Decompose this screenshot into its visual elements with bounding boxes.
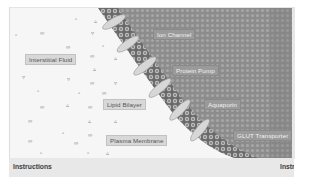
molecule-icon: ∞ [88,132,92,138]
molecule-icon: ▫ [102,43,104,49]
label-plasma-membrane[interactable]: Plasma Membrane [106,135,167,146]
molecule-icon: ▫ [40,150,42,156]
simulation-frame: ▫ ▵ ▫ ∞ ▿ ∞ ▫ ∞ ▵ ▵ ▿ ▿ ∞ ▿ ▫ ▫ ∞ ∞ ▵ ∞ … [9,7,295,159]
label-aquaporin[interactable]: Aquaporin [204,99,241,110]
label-protein-pump[interactable]: Protein Pump [172,65,219,76]
molecule-icon: ▵ [66,102,69,108]
molecule-icon: ▫ [75,16,77,22]
molecule-icon: ▫ [78,90,80,96]
instructions-tab[interactable]: Instructions [13,163,52,170]
molecule-icon: ∞ [28,138,32,144]
label-glut-transporter[interactable]: GLUT Transporter [233,130,292,141]
molecule-icon: ▫ [87,150,89,156]
molecule-icon: ∞ [74,140,78,146]
molecule-icon: ∞ [66,44,70,50]
molecule-icon: ∞ [88,104,92,110]
molecule-icon: ▵ [114,118,117,124]
vertical-scrollbar[interactable] [292,8,295,159]
molecule-icon: ∞ [102,90,106,96]
molecule-icon: ▵ [88,118,91,124]
molecule-icon: ∞ [28,118,32,124]
molecule-icon: ∞ [40,104,44,110]
molecule-icon: ∞ [90,80,94,86]
molecule-icon: ▫ [37,88,39,94]
molecule-icon: ∞ [40,30,44,36]
molecule-icon: ▵ [114,55,117,61]
molecule-icon: ▿ [91,30,94,36]
instructions-bar: Instructions Instru [9,158,294,177]
molecule-icon: ▫ [62,130,64,136]
instructions-tab-secondary[interactable]: Instru [280,163,294,170]
molecule-icon: ∞ [90,53,94,59]
molecule-icon: ▿ [67,76,70,82]
label-ion-channel[interactable]: Ion Channel [153,29,195,40]
cell-membrane-stage[interactable]: ▫ ▵ ▫ ∞ ▿ ∞ ▫ ∞ ▵ ▵ ▿ ▿ ∞ ▿ ▫ ▫ ∞ ∞ ▵ ∞ … [10,8,295,159]
molecule-icon: ▵ [94,18,97,24]
molecule-icon: ▿ [114,80,117,86]
molecule-icon: ▵ [106,150,109,156]
molecule-icon: ▫ [15,32,17,38]
molecule-icon: ▵ [93,66,96,72]
label-lipid-bilayer[interactable]: Lipid Bilayer [103,99,146,110]
label-interstitial-fluid[interactable]: Interstitial Fluid [25,54,76,65]
molecule-icon: ▿ [22,74,25,80]
